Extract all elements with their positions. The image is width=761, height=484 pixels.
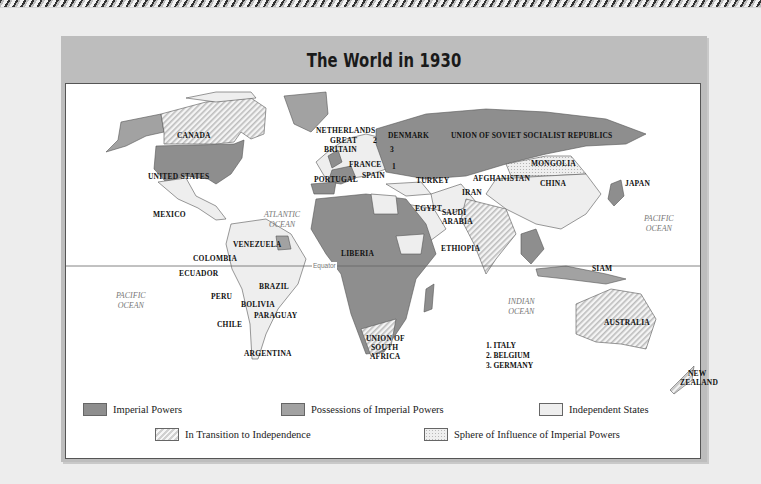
label-denmark: DENMARK (388, 131, 429, 140)
region-madagascar (424, 284, 434, 312)
label-netherlands: NETHERLANDS (316, 126, 375, 135)
label-colombia: COLOMBIA (193, 254, 237, 263)
legend-transition: In Transition to Independence (155, 428, 311, 441)
label-turkey: TURKEY (416, 176, 449, 185)
pacific-west-line-1: PACIFIC (116, 291, 146, 301)
label-australia: AUSTRALIA (604, 318, 650, 327)
region-egypt (371, 194, 398, 214)
legend-imperial-powers: Imperial Powers (83, 403, 182, 416)
decorative-rope-border (0, 0, 761, 8)
map-title: The World in 1930 (132, 36, 636, 83)
region-japan (608, 180, 624, 206)
label-argentina: ARGENTINA (244, 349, 292, 358)
indian-line-2: OCEAN (508, 307, 535, 317)
label-bolivia: BOLIVIA (241, 300, 275, 309)
key-item-italy: 1. ITALY (486, 341, 533, 351)
label-paraguay: PARAGUAY (254, 311, 297, 320)
label-peru: PERU (211, 292, 232, 301)
legend-sphere: Sphere of Influence of Imperial Powers (424, 428, 620, 441)
swatch-transition (155, 428, 179, 441)
label-south-africa-2: SOUTH (371, 343, 398, 352)
pacific-east-line-1: PACIFIC (644, 214, 674, 224)
label-south-africa-1: UNION OF (366, 334, 405, 343)
swatch-independent (539, 403, 563, 416)
label-ethiopia: ETHIOPIA (441, 244, 480, 253)
label-portugal: PORTUGAL (314, 175, 358, 184)
label-mongolia: MONGOLIA (531, 159, 576, 168)
label-pacific-ocean-east: PACIFIC OCEAN (644, 214, 674, 234)
label-saudi-2: ARABIA (442, 217, 473, 226)
label-japan: JAPAN (625, 179, 650, 188)
region-indonesia (536, 266, 626, 284)
label-num-2: 2 (373, 136, 377, 145)
atlantic-line-2: OCEAN (264, 220, 300, 230)
label-france: FRANCE (349, 160, 381, 169)
label-nz-2: ZEALAND (680, 378, 718, 387)
label-china: CHINA (540, 179, 566, 188)
region-india (461, 199, 516, 274)
label-siam: SIAM (592, 264, 612, 273)
label-brazil: BRAZIL (259, 282, 289, 291)
label-ecuador: ECUADOR (179, 269, 218, 278)
label-atlantic-ocean: ATLANTIC OCEAN (264, 210, 300, 230)
label-ussr: UNION OF SOVIET SOCIALIST REPUBLICS (451, 131, 613, 140)
legend-possessions: Possessions of Imperial Powers (281, 403, 444, 416)
swatch-possessions (281, 403, 305, 416)
equator-label: Equator (312, 262, 337, 269)
swatch-imperial-powers (83, 403, 107, 416)
label-spain: SPAIN (362, 171, 385, 180)
key-item-belgium: 2. BELGIUM (486, 351, 533, 361)
label-egypt: EGYPT (415, 204, 442, 213)
label-saudi-1: SAUDI (442, 208, 466, 217)
label-great-britain-2: BRITAIN (324, 145, 357, 154)
world-map: CANADA UNITED STATES MEXICO VENEZUELA CO… (65, 83, 701, 459)
label-iran: IRAN (462, 188, 482, 197)
legend-label-independent: Independent States (569, 404, 649, 415)
swatch-sphere (424, 428, 448, 441)
region-southeast-asia (521, 229, 544, 264)
label-num-3: 3 (390, 145, 394, 154)
key-item-germany: 3. GERMANY (486, 361, 533, 371)
legend-label-imperial-powers: Imperial Powers (113, 404, 182, 415)
label-united-states: UNITED STATES (148, 172, 209, 181)
indian-line-1: INDIAN (508, 297, 535, 307)
label-venezuela: VENEZUELA (233, 240, 281, 249)
label-mexico: MEXICO (153, 210, 186, 219)
region-ethiopia (396, 234, 424, 254)
label-great-britain-1: GREAT (330, 136, 357, 145)
label-afghanistan: AFGHANISTAN (473, 174, 530, 183)
legend-label-possessions: Possessions of Imperial Powers (311, 404, 444, 415)
legend-independent: Independent States (539, 403, 649, 416)
label-chile: CHILE (217, 320, 242, 329)
label-liberia: LIBERIA (341, 249, 374, 258)
label-indian-ocean: INDIAN OCEAN (508, 297, 535, 317)
label-pacific-ocean-west: PACIFIC OCEAN (116, 291, 146, 311)
pacific-west-line-2: OCEAN (116, 301, 146, 311)
legend-label-transition: In Transition to Independence (185, 429, 311, 440)
pacific-east-line-2: OCEAN (644, 224, 674, 234)
label-south-africa-3: AFRICA (370, 352, 400, 361)
label-canada: CANADA (177, 131, 211, 140)
label-nz-1: NEW (688, 369, 707, 378)
legend-label-sphere: Sphere of Influence of Imperial Powers (454, 429, 620, 440)
region-alaska (106, 114, 164, 152)
label-num-1: 1 (392, 162, 396, 171)
numbered-key: 1. ITALY 2. BELGIUM 3. GERMANY (486, 341, 533, 371)
map-panel: The World in 1930 (61, 36, 707, 462)
atlantic-line-1: ATLANTIC (264, 210, 300, 220)
